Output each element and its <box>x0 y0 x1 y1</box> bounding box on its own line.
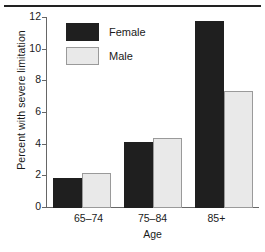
legend-item-female: Female <box>66 22 146 42</box>
legend-label-female: Female <box>109 26 146 39</box>
legend: Female Male <box>66 22 146 70</box>
y-tick-label-2: 2 <box>35 168 41 181</box>
bar-male-85-plus <box>224 91 253 208</box>
bar-male-75-84 <box>153 138 182 208</box>
y-axis-title: Percent with severe limitation <box>14 0 28 200</box>
x-axis-title: Age <box>46 228 259 241</box>
y-tick-label-12: 12 <box>29 10 41 23</box>
top-rule-divider <box>4 5 261 7</box>
legend-label-male: Male <box>109 50 133 63</box>
bar-male-65-74 <box>82 173 111 208</box>
y-tick-label-4: 4 <box>35 137 41 150</box>
plot-area: 0 2 4 6 8 10 12 <box>46 18 259 208</box>
bar-female-75-84 <box>124 142 153 209</box>
y-tick-label-8: 8 <box>35 73 41 86</box>
legend-swatch-female-icon <box>66 23 99 41</box>
legend-swatch-male-icon <box>66 47 99 65</box>
bar-female-85-plus <box>195 21 224 208</box>
x-tick-label-65-74: 65–74 <box>74 212 103 225</box>
bar-chart-figure: Percent with severe limitation 0 2 4 6 8… <box>0 0 265 252</box>
x-tick-label-85-plus: 85+ <box>207 212 225 225</box>
y-tick-label-6: 6 <box>35 105 41 118</box>
legend-item-male: Male <box>66 46 146 66</box>
x-tick-label-75-84: 75–84 <box>138 212 167 225</box>
bar-female-65-74 <box>53 178 82 208</box>
y-tick-label-10: 10 <box>29 42 41 55</box>
y-tick-label-0: 0 <box>35 200 41 213</box>
